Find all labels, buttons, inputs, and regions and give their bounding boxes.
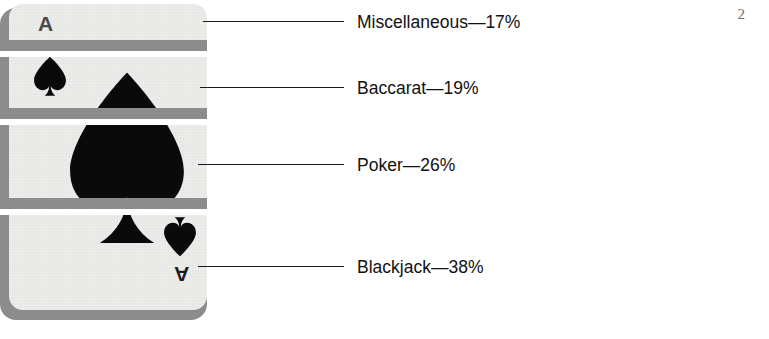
card-rank-top: A [38,12,53,36]
leader-line-baccarat [200,87,344,88]
spade-icon [31,56,69,100]
slice-separator-3 [0,198,207,209]
pie-chart-card: A A [0,4,214,324]
slice-gap-3 [0,209,214,215]
slice-label-poker: Poker—26% [357,155,455,176]
spade-icon-bottom [161,213,199,257]
page-number: 2 [738,6,746,23]
card-rank-bottom: A [174,262,189,286]
slice-separator-2 [0,108,207,119]
slice-gap-2 [0,119,214,125]
slice-separator-1 [0,40,207,51]
leader-line-poker [198,164,344,165]
leader-line-blackjack [198,266,344,267]
slice-label-blackjack: Blackjack—38% [357,257,483,278]
slice-label-miscellaneous: Miscellaneous—17% [357,12,520,33]
infographic-figure: 2 A [0,0,769,339]
leader-line-miscellaneous [203,21,344,22]
slice-label-baccarat: Baccarat—19% [357,78,479,99]
slice-gap-1 [0,51,214,57]
